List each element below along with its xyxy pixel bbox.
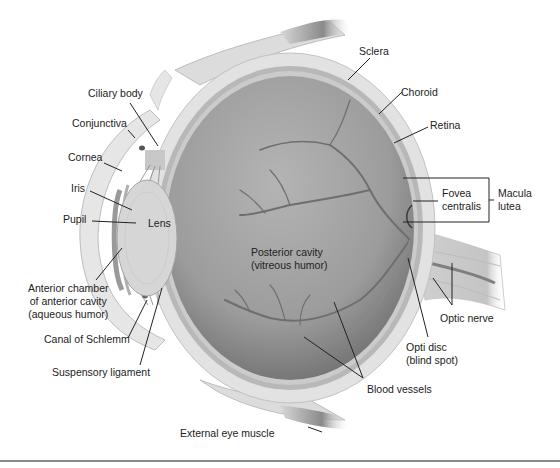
anterior-line-2: of anterior cavity	[28, 295, 109, 308]
label-canal-of-schlemm: Canal of Schlemm	[44, 333, 130, 346]
macula-line-2: lutea	[498, 200, 532, 213]
lens-shape	[117, 180, 177, 296]
label-iris: Iris	[71, 182, 85, 195]
anterior-line-3: (aqueous humor)	[28, 308, 109, 321]
label-suspensory-ligament: Suspensory ligament	[52, 366, 150, 379]
label-choroid: Choroid	[401, 86, 438, 99]
label-anterior-chamber: Anterior chamber of anterior cavity (aqu…	[28, 282, 109, 321]
label-cornea: Cornea	[68, 151, 102, 164]
label-pupil: Pupil	[63, 213, 86, 226]
bottom-rule	[0, 460, 560, 462]
label-posterior-cavity: Posterior cavity (vitreous humor)	[251, 246, 327, 272]
label-sclera: Sclera	[359, 45, 389, 58]
label-blood-vessels: Blood vessels	[367, 383, 432, 396]
label-external-eye-muscle: External eye muscle	[180, 427, 275, 440]
anterior-line-1: Anterior chamber	[28, 282, 109, 295]
label-macula-lutea: Macula lutea	[498, 187, 532, 213]
fovea-line-2: centralis	[442, 200, 481, 213]
macula-line-1: Macula	[498, 187, 532, 200]
label-optic-disc: Opti disc (blind spot)	[406, 341, 458, 367]
optic-disc-line-1: Opti disc	[406, 341, 458, 354]
label-lens: Lens	[148, 217, 171, 230]
label-optic-nerve: Optic nerve	[440, 312, 494, 325]
posterior-line-2: (vitreous humor)	[251, 259, 327, 272]
optic-disc-line-2: (blind spot)	[406, 354, 458, 367]
label-ciliary-body: Ciliary body	[88, 87, 143, 100]
label-fovea-centralis: Fovea centralis	[442, 187, 481, 213]
posterior-line-1: Posterior cavity	[251, 246, 327, 259]
label-conjunctiva: Conjunctiva	[72, 117, 127, 130]
label-retina: Retina	[430, 119, 460, 132]
eye-anatomy-illustration	[0, 0, 560, 468]
fovea-line-1: Fovea	[442, 187, 481, 200]
